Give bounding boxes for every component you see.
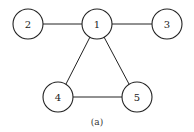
graph-diagram: 1 2 3 4 5 (a) — [0, 0, 194, 132]
node-4-label: 4 — [55, 92, 61, 103]
node-1-label: 1 — [94, 19, 100, 30]
node-2: 2 — [13, 9, 43, 39]
node-5-label: 5 — [134, 92, 140, 103]
node-3: 3 — [152, 9, 182, 39]
node-4: 4 — [43, 82, 73, 112]
node-5: 5 — [122, 82, 152, 112]
node-1: 1 — [82, 9, 112, 39]
node-3-label: 3 — [164, 19, 170, 30]
node-2-label: 2 — [25, 19, 31, 30]
edge-1-5 — [104, 37, 129, 84]
edge-1-4 — [66, 37, 90, 84]
figure-caption: (a) — [91, 117, 103, 127]
